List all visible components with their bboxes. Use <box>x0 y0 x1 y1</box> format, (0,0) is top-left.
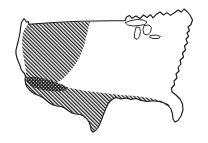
us-map-figure: Map of the contiguous United States Outl… <box>0 0 208 143</box>
us-map-svg <box>0 0 208 143</box>
lake-erie-outline <box>150 35 161 39</box>
